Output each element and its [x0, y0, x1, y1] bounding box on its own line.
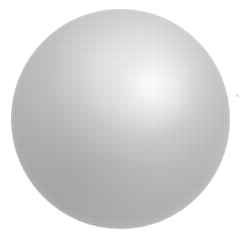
speck-artifact — [236, 94, 239, 97]
sphere-edge-feather — [10, 8, 231, 230]
sphere-rim-light — [11, 9, 230, 229]
sphere-grain-texture — [11, 9, 230, 229]
sphere-terminator-shading — [11, 9, 230, 229]
sphere-scene — [0, 0, 246, 245]
sphere-shape — [11, 9, 230, 229]
